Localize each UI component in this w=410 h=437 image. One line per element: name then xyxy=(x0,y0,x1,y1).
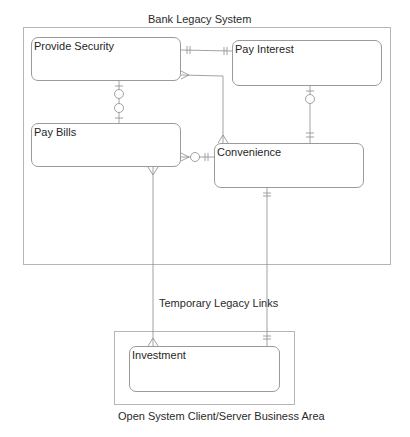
entity-investment[interactable]: Investment xyxy=(129,346,280,392)
entity-name: Convenience xyxy=(217,146,281,158)
entity-name: Investment xyxy=(132,349,186,361)
entity-provide-security[interactable]: Provide Security xyxy=(31,37,181,81)
entity-pay-bills[interactable]: Pay Bills xyxy=(31,123,181,167)
entity-convenience[interactable]: Convenience xyxy=(214,143,364,188)
entity-pay-interest[interactable]: Pay Interest xyxy=(232,40,382,86)
entity-name: Provide Security xyxy=(34,40,114,52)
entity-name: Pay Bills xyxy=(34,126,76,138)
entity-name: Pay Interest xyxy=(235,43,294,55)
